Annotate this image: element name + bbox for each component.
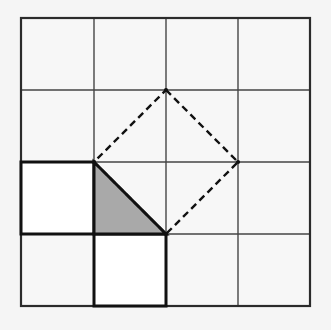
grid-cell: [238, 18, 310, 90]
tilted-square-vertex-top: [164, 88, 168, 92]
grid-cell: [166, 234, 238, 306]
grid-cell: [94, 18, 166, 90]
tilted-square-vertex-right: [236, 160, 240, 164]
geometry-diagram: [0, 0, 331, 330]
grid-cell: [21, 90, 94, 162]
tilted-square-vertex-left: [92, 160, 96, 164]
grid-cell: [238, 234, 310, 306]
figure-canvas: [0, 0, 331, 330]
grid-cell: [21, 234, 94, 306]
grid-cell: [238, 162, 310, 234]
grid-cell: [238, 90, 310, 162]
tilted-square-vertex-bottom: [164, 232, 168, 236]
grid-cell: [166, 18, 238, 90]
white-square-bottom: [94, 234, 166, 306]
grid-cell: [21, 18, 94, 90]
white-square-left: [21, 162, 94, 234]
